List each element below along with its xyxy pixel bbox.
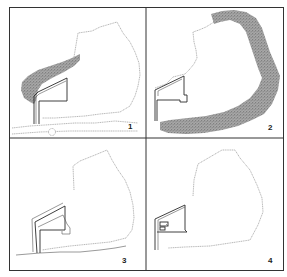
panel-label-2: 2 (268, 123, 273, 132)
panel-4: 4 (155, 150, 273, 265)
room-1 (160, 222, 168, 226)
building-wall (35, 206, 65, 253)
panel-3: 3 (16, 150, 134, 265)
site-outline (155, 22, 214, 88)
ground-line (12, 121, 138, 128)
lower-ground-line (12, 131, 138, 134)
vegetation-strip (21, 54, 80, 104)
panel-2: 2 (155, 10, 280, 134)
vegetation-band (160, 10, 280, 134)
building-wall-inner (158, 207, 185, 250)
building-wall (155, 76, 187, 121)
panel-1: 1 (12, 22, 140, 136)
tree-marker (49, 129, 56, 136)
site-plan-figure: 1 2 3 4 (0, 0, 287, 277)
site-outline (42, 150, 134, 250)
panel-label-1: 1 (128, 122, 133, 131)
site-outline (168, 150, 263, 248)
panel-label-3: 3 (122, 256, 127, 265)
building-wall-inner (158, 79, 182, 96)
ground-line (16, 246, 126, 255)
room-2 (160, 227, 165, 230)
panel-label-4: 4 (268, 256, 273, 265)
